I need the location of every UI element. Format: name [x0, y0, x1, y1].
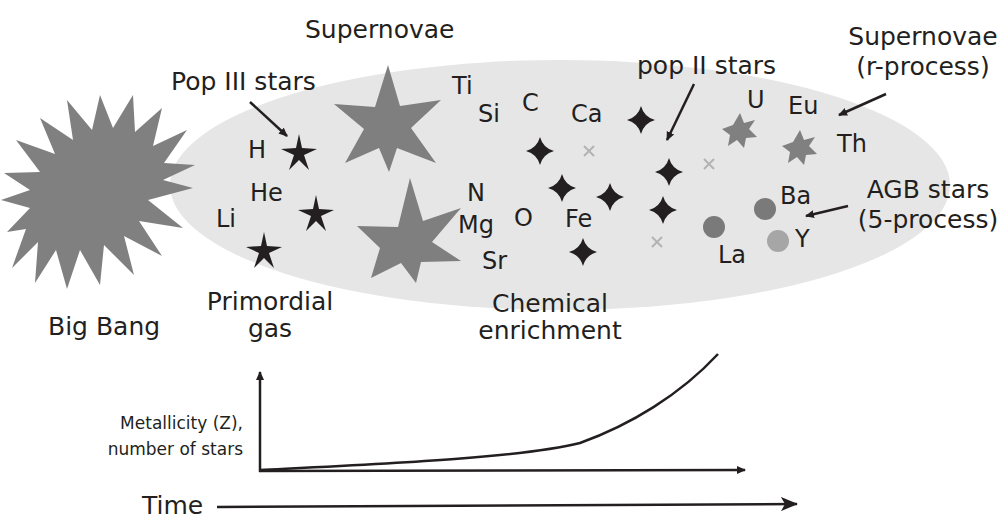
element-Sr: Sr	[482, 248, 507, 274]
element-H: H	[248, 137, 266, 163]
element-Si: Si	[478, 101, 500, 127]
element-Ca: Ca	[571, 101, 602, 127]
element-O: O	[514, 205, 533, 231]
element-Y: Y	[795, 226, 810, 252]
big-bang-starburst-icon	[1, 95, 195, 289]
element-Th: Th	[837, 131, 867, 157]
element-Fe: Fe	[565, 206, 592, 232]
metallicity-curve	[260, 354, 718, 470]
element-He: He	[250, 180, 283, 206]
chemical-enrichment-label-line1: Chemical	[470, 290, 630, 317]
agb-circle-icon	[767, 230, 789, 252]
nucleosynthesis-diagram: Supernovae Pop III stars pop II stars Su…	[0, 0, 1008, 520]
element-Eu: Eu	[788, 93, 818, 119]
element-Ba: Ba	[780, 183, 811, 209]
element-Mg: Mg	[458, 212, 494, 238]
agb-circle-icon	[754, 198, 776, 220]
agb-label-line2: (5-process)	[853, 206, 1003, 233]
agb-circle-icon	[703, 216, 725, 238]
chemical-enrichment-label-line2: enrichment	[470, 317, 630, 344]
primordial-gas-label-line2: gas	[190, 315, 350, 342]
agb-label-line1: AGB stars	[853, 176, 1003, 203]
y-axis-label-line1: Metallicity (Z),	[60, 411, 243, 435]
big-bang-label: Big Bang	[48, 313, 160, 340]
r-process-label-line2: (r-process)	[843, 53, 1003, 80]
time-label: Time	[142, 492, 203, 519]
pop2-stars-label: pop II stars	[637, 52, 776, 79]
element-U: U	[747, 87, 765, 113]
time-arrow-icon	[217, 504, 797, 507]
element-La: La	[718, 242, 746, 268]
r-process-label-line1: Supernovae	[843, 23, 1003, 50]
element-Li: Li	[216, 206, 236, 232]
y-axis-label-line2: number of stars	[60, 437, 243, 461]
pop3-stars-label: Pop III stars	[171, 68, 316, 95]
x-axis	[259, 470, 745, 471]
element-C: C	[522, 90, 539, 116]
metallicity-graph	[259, 354, 745, 472]
supernovae-label: Supernovae	[305, 16, 454, 43]
element-N: N	[467, 180, 485, 206]
element-Ti: Ti	[452, 73, 473, 99]
primordial-gas-label-line1: Primordial	[190, 288, 350, 315]
